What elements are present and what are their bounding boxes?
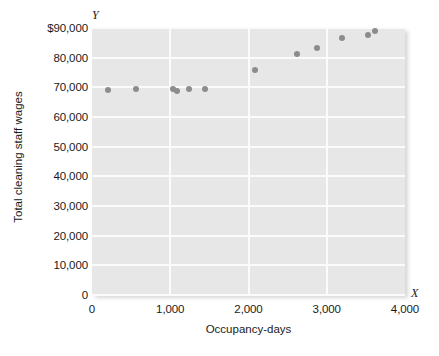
data-point: [186, 86, 192, 92]
data-point: [372, 28, 378, 34]
x-axis-tick-label: 1,000: [140, 303, 200, 316]
data-point: [339, 35, 345, 41]
y-axis-title: Total cleaning staff wages: [12, 57, 24, 257]
x-axis-tick-label: 3,000: [297, 303, 357, 316]
data-point: [314, 45, 320, 51]
y-axis-tick-label: $90,000: [4, 22, 88, 34]
x-axis-tick-label: 2,000: [219, 303, 279, 316]
y-axis-letter: Y: [92, 8, 99, 23]
data-point: [133, 86, 139, 92]
x-axis-tick-label: 0: [62, 303, 122, 316]
plot-area: [92, 28, 405, 295]
y-axis-tick-label: 10,000: [4, 259, 88, 271]
gridline-vertical: [248, 28, 250, 295]
data-point: [105, 87, 111, 93]
scatter-chart: Y X 010,00020,00030,00040,00050,00060,00…: [0, 0, 439, 356]
data-point: [252, 67, 258, 73]
data-point: [365, 32, 371, 38]
gridline-vertical: [169, 28, 171, 295]
x-axis-tick-labels: 01,0002,0003,0004,000: [92, 303, 405, 319]
x-axis-tick-label: 4,000: [375, 303, 435, 316]
data-point: [202, 86, 208, 92]
data-point: [174, 88, 180, 94]
x-axis-letter: X: [411, 286, 418, 301]
x-axis-title: Occupancy-days: [92, 323, 405, 335]
gridline-vertical: [326, 28, 328, 295]
y-axis-tick-label: 0: [4, 289, 88, 301]
